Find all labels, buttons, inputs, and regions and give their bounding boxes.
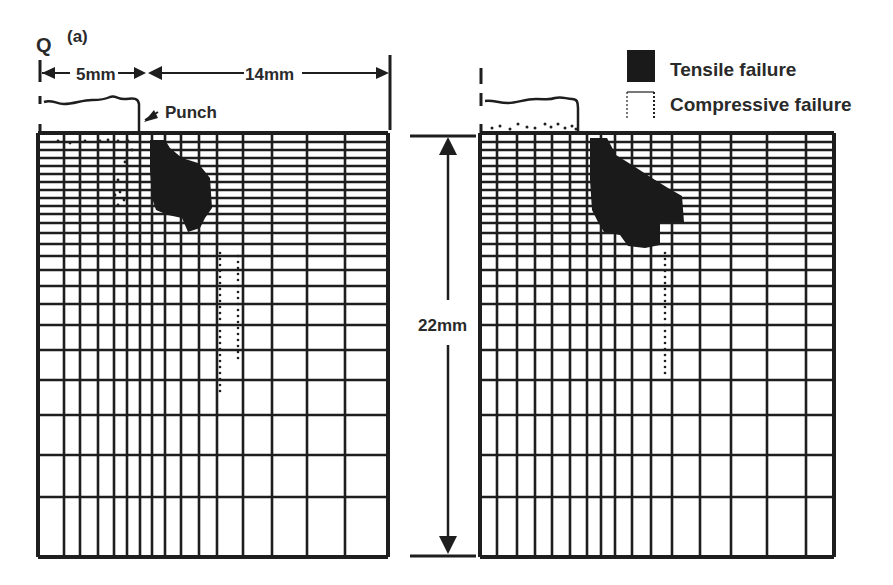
compressive-dot: [219, 270, 222, 273]
compressive-dot: [664, 288, 667, 291]
compressive-dot: [219, 282, 222, 285]
compressive-dot: [534, 127, 537, 130]
compressive-dot: [219, 384, 222, 387]
compressive-dot: [219, 312, 222, 315]
compressive-dot: [219, 324, 222, 327]
compressive-dot: [219, 348, 222, 351]
compressive-dot: [664, 342, 667, 345]
tensile-failure-swatch: [627, 50, 655, 82]
compressive-dot: [114, 194, 117, 197]
compressive-dot: [237, 273, 240, 276]
compressive-dot: [219, 354, 222, 357]
fea-mesh-figure: Q (a) 5mm 14mm Punch Tensile fai: [0, 0, 893, 585]
arrowhead-right-icon: [376, 67, 389, 79]
compressive-dot: [117, 140, 120, 143]
compressive-dot: [575, 128, 578, 131]
compressive-dot: [237, 333, 240, 336]
panel-letter: Q: [36, 34, 52, 56]
compressive-dot: [664, 258, 667, 261]
compressive-dot: [237, 309, 240, 312]
compressive-dot: [123, 199, 126, 202]
arrowhead-left-icon: [42, 67, 55, 79]
compressive-dot: [664, 336, 667, 339]
compressive-dot: [664, 318, 667, 321]
legend: Tensile failure Compressive failure: [627, 50, 852, 120]
compressive-dot: [219, 252, 222, 255]
compressive-dot: [131, 149, 134, 152]
compressive-dot: [237, 351, 240, 354]
compressive-dot: [237, 303, 240, 306]
compressive-dot: [237, 255, 240, 258]
compressive-dot: [237, 315, 240, 318]
compressive-dot: [69, 142, 72, 145]
compressive-dot: [237, 339, 240, 342]
punch-left: [40, 96, 139, 133]
compressive-dot: [57, 140, 60, 143]
legend-compressive-label: Compressive failure: [670, 94, 852, 115]
compressive-dot: [219, 360, 222, 363]
compressive-dot: [491, 127, 494, 130]
compressive-dot: [99, 140, 102, 143]
compressive-dot: [219, 276, 222, 279]
compressive-dot: [219, 306, 222, 309]
arrowhead-right-icon: [134, 67, 146, 79]
dimension-22mm-label: 22mm: [418, 316, 467, 335]
arrowhead-icon: [144, 110, 158, 122]
compressive-dot: [526, 126, 529, 129]
compressive-dot: [219, 294, 222, 297]
compressive-dot: [550, 126, 553, 129]
compressive-dot: [219, 258, 222, 261]
compressive-dot: [664, 312, 667, 315]
compressive-dot: [664, 270, 667, 273]
compressive-dot: [219, 390, 222, 393]
compressive-dot: [84, 140, 87, 143]
compressive-dot: [237, 297, 240, 300]
arrowhead-up-icon: [439, 137, 457, 155]
compressive-dot: [237, 261, 240, 264]
compressive-dots-top-right: [491, 123, 578, 131]
vertical-dimension: [410, 136, 476, 556]
legend-tensile-label: Tensile failure: [670, 59, 796, 80]
compressive-dot: [664, 366, 667, 369]
compressive-dot: [664, 360, 667, 363]
compressive-dot: [219, 330, 222, 333]
compressive-dot: [509, 128, 512, 131]
compressive-dot: [219, 288, 222, 291]
compressive-dot: [237, 279, 240, 282]
compressive-dot: [119, 191, 122, 194]
compressive-dot: [499, 125, 502, 128]
compressive-dot: [219, 336, 222, 339]
compressive-dot: [664, 276, 667, 279]
mesh-left-panel: [38, 133, 388, 557]
compressive-dot: [107, 139, 110, 142]
punch-callout: [144, 110, 158, 122]
compressive-dot: [664, 264, 667, 267]
compressive-dot: [127, 140, 130, 143]
compressive-dot: [664, 300, 667, 303]
dimension-5mm-label: 5mm: [76, 65, 116, 84]
compressive-dot: [664, 354, 667, 357]
compressive-dot: [237, 357, 240, 360]
compressive-dot: [237, 321, 240, 324]
arrowhead-left-icon: [148, 66, 162, 80]
compressive-dot: [219, 366, 222, 369]
compressive-dot: [664, 330, 667, 333]
compressive-dot: [664, 372, 667, 375]
compressive-dot: [219, 378, 222, 381]
compressive-dot: [664, 252, 667, 255]
compressive-dot: [219, 300, 222, 303]
dimension-14mm-label: 14mm: [245, 65, 294, 84]
compressive-dot: [664, 294, 667, 297]
compressive-dot: [117, 204, 120, 207]
compressive-dot: [664, 324, 667, 327]
compressive-dot: [564, 127, 567, 130]
compressive-dot: [517, 123, 520, 126]
subfigure-label: (a): [67, 27, 88, 46]
compressive-dot: [219, 342, 222, 345]
compressive-dot: [124, 161, 127, 164]
compressive-dot: [237, 291, 240, 294]
compressive-dot: [571, 125, 574, 128]
compressive-dot: [664, 282, 667, 285]
compressive-dot: [219, 264, 222, 267]
compressive-dot: [219, 372, 222, 375]
